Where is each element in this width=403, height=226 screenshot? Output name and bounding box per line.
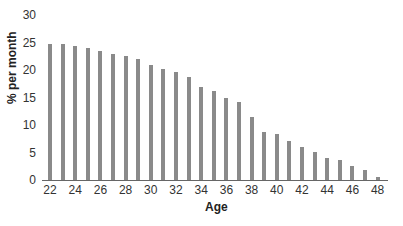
x-tick-label: 40 — [265, 184, 289, 196]
bar-age-38 — [250, 117, 254, 180]
bar-age-31 — [161, 69, 165, 180]
bar-age-25 — [86, 48, 90, 180]
y-axis-label: % per month — [5, 90, 19, 104]
x-tick-label: 34 — [189, 184, 213, 196]
y-tick-label: 10 — [12, 119, 36, 131]
bar-age-42 — [300, 147, 304, 180]
x-tick-label: 44 — [315, 184, 339, 196]
bar-age-29 — [136, 59, 140, 180]
bar-age-46 — [350, 166, 354, 180]
y-tick-label: 5 — [12, 147, 36, 159]
bar-age-37 — [237, 102, 241, 180]
x-tick-label: 42 — [290, 184, 314, 196]
bar-age-45 — [338, 160, 342, 180]
x-tick-label: 26 — [88, 184, 112, 196]
bar-age-44 — [325, 158, 329, 180]
bar-age-36 — [224, 98, 228, 181]
x-tick-label: 28 — [114, 184, 138, 196]
x-axis-label: Age — [205, 200, 228, 214]
bar-age-33 — [187, 77, 191, 180]
bar-age-40 — [275, 134, 279, 180]
x-axis-line — [42, 180, 388, 181]
bar-age-23 — [61, 44, 65, 180]
bar-chart: 051015202530 222426283032343638404244464… — [0, 0, 403, 226]
y-tick-label: 0 — [12, 174, 36, 186]
x-tick-label: 30 — [139, 184, 163, 196]
bar-age-22 — [48, 44, 52, 180]
x-tick-label: 38 — [240, 184, 264, 196]
x-tick-label: 36 — [214, 184, 238, 196]
bar-age-28 — [124, 56, 128, 180]
bar-age-47 — [363, 170, 367, 180]
x-tick-label: 32 — [164, 184, 188, 196]
x-tick-label: 46 — [340, 184, 364, 196]
bar-age-24 — [73, 46, 77, 180]
bar-age-27 — [111, 54, 115, 180]
x-tick-label: 22 — [38, 184, 62, 196]
bar-age-41 — [287, 141, 291, 180]
y-tick-label: 30 — [12, 9, 36, 21]
bar-age-32 — [174, 72, 178, 180]
bar-age-30 — [149, 65, 153, 181]
bar-age-34 — [199, 87, 203, 181]
bar-age-43 — [313, 152, 317, 180]
bar-age-26 — [98, 51, 102, 180]
x-tick-label: 48 — [366, 184, 390, 196]
bar-age-35 — [212, 91, 216, 180]
bar-age-39 — [262, 132, 266, 180]
x-tick-label: 24 — [63, 184, 87, 196]
